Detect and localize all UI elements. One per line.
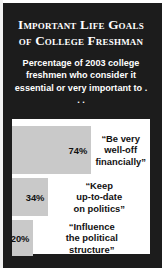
bar-row: 20% “Influence the political structure” [12,220,150,256]
bar-value-label: 74% [69,145,92,156]
bar-category-line: “Be very [94,133,147,144]
bar-category-label: “Be very well-off financially” [91,133,150,167]
bar-row: 74% “Be very well-off financially” [12,126,150,174]
left-edge-highlight [0,0,3,268]
top-edge-highlight [0,0,162,3]
bar-politics: 34% [12,178,48,216]
bar-value-label: 20% [11,233,34,244]
bar-political-structure: 20% [12,220,33,256]
bar-category-label: “Influence the political structure” [33,221,150,255]
bar-chart: 74% “Be very well-off financially” 34% “… [12,119,150,254]
bar-financially: 74% [12,126,91,174]
infographic-card: Important Life Goals of College Freshman… [0,0,162,268]
bar-category-label: “Keep up-to-date on politics” [48,180,150,214]
chart-subtitle: Percentage of 2003 college freshmen who … [6,48,156,107]
bar-category-line: on politics” [51,203,147,214]
bar-category-line: “Keep [51,180,147,191]
bar-category-line: structure” [36,244,147,255]
page-title: Important Life Goals of College Freshman [6,6,156,48]
bar-row: 34% “Keep up-to-date on politics” [12,178,150,216]
bar-category-line: well-off [94,144,147,155]
bar-category-line: “Influence [36,221,147,232]
bar-category-line: up-to-date [51,191,147,202]
card-inner: Important Life Goals of College Freshman… [6,6,156,263]
bar-category-line: financially” [94,156,147,167]
bar-value-label: 34% [26,192,49,203]
bar-category-line: the political [36,232,147,243]
